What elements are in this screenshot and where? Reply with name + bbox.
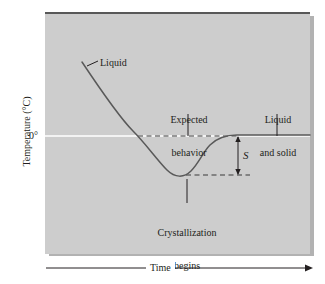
x-axis-label: Time [146, 262, 175, 273]
annotation-liquid-and-solid: Liquid and solid [242, 92, 314, 180]
liquid-leader-line [87, 61, 98, 66]
cooling-curve-figure: Liquid Expected behavior Liquid and soli… [0, 0, 325, 284]
annotation-liquid-and-solid-line1: Liquid [242, 114, 314, 125]
annotation-liquid: Liquid [100, 57, 127, 68]
supercooling-symbol-label: S [243, 149, 249, 161]
annotation-expected-behavior-line2: behavior [152, 147, 226, 158]
y-axis-label: Temperature (°C) [21, 62, 32, 202]
annotation-liquid-and-solid-line2: and solid [242, 147, 314, 158]
annotation-crystallization-line1: Crystallization [142, 227, 232, 238]
supercooling-arrow [235, 136, 240, 175]
annotation-expected-behavior-line1: Expected [152, 114, 226, 125]
annotation-expected-behavior: Expected behavior [152, 92, 226, 180]
